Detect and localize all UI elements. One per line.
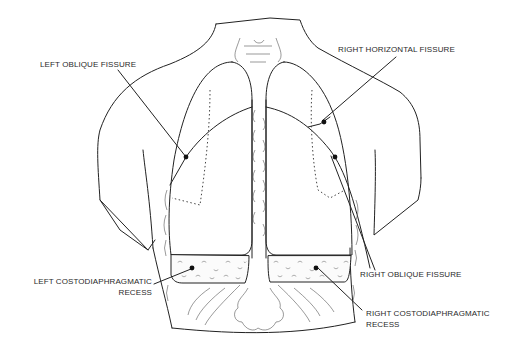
torso-outline — [216, 18, 421, 178]
left-recess-marker — [190, 266, 195, 271]
left-oblique-fissure-marker — [184, 155, 189, 160]
left-lung-outline — [169, 62, 252, 255]
label-line-1: LEFT COSTODIAPHRAGMATIC — [24, 277, 152, 288]
label-right-oblique-fissure: RIGHT OBLIQUE FISSURE — [360, 270, 462, 281]
right-lung-outline — [266, 62, 352, 255]
label-left-oblique-fissure: LEFT OBLIQUE FISSURE — [40, 60, 136, 71]
label-left-costodiaphragmatic-recess: LEFT COSTODIAPHRAGMATIC RECESS — [24, 277, 152, 298]
label-right-costodiaphragmatic-recess: RIGHT COSTODIAPHRAGMATIC RECESS — [366, 309, 490, 330]
right-oblique-fissure-marker — [333, 155, 338, 160]
right-recess-marker — [314, 266, 319, 271]
label-line-2: RECESS — [24, 288, 152, 299]
label-line-1: RIGHT COSTODIAPHRAGMATIC — [366, 309, 490, 320]
right-horizontal-fissure-marker — [322, 120, 327, 125]
torso-outline-left — [98, 24, 216, 250]
label-right-horizontal-fissure: RIGHT HORIZONTAL FISSURE — [338, 45, 455, 56]
label-line-2: RECESS — [366, 320, 490, 331]
